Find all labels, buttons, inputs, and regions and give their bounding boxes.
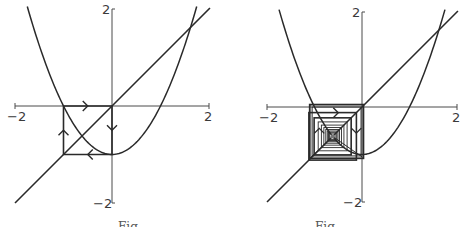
tick-label-y-min: −2 bbox=[343, 195, 362, 210]
tick-label-y-max: 2 bbox=[102, 2, 110, 17]
tick-label-y-max: 2 bbox=[352, 5, 360, 20]
left-diagram-panel: −222−2 Fig. bbox=[0, 0, 235, 227]
caption-right: Fig. bbox=[315, 221, 339, 227]
cobweb-plot-left: −222−2 bbox=[0, 0, 235, 227]
right-diagram-panel: −222−2 Fig. bbox=[235, 0, 470, 227]
cobweb-plot-right: −222−2 bbox=[235, 0, 470, 227]
caption-left: Fig. bbox=[118, 221, 142, 227]
fixed-point-marker bbox=[330, 134, 334, 138]
arrow-up-icon bbox=[314, 128, 324, 133]
tick-label-x-max: 2 bbox=[452, 110, 460, 125]
tick-label-x-min: −2 bbox=[7, 109, 26, 124]
tick-label-x-min: −2 bbox=[259, 110, 278, 125]
tick-label-x-max: 2 bbox=[204, 109, 212, 124]
tick-label-y-min: −2 bbox=[93, 196, 112, 211]
